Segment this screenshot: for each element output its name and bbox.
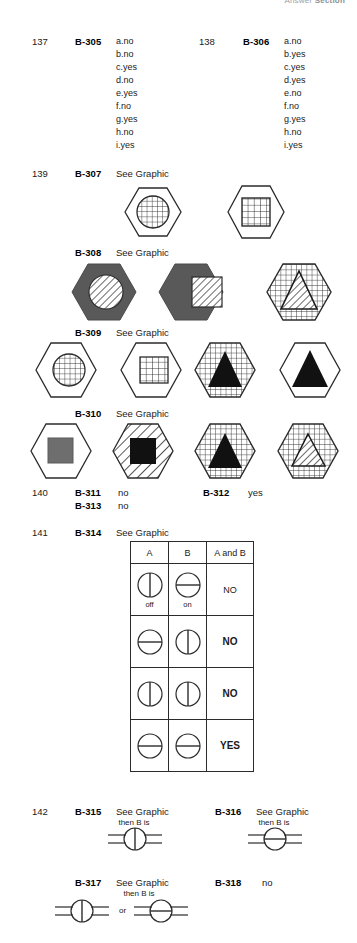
answer-letter: e. (116, 88, 124, 98)
or-label-b317: or (119, 906, 126, 915)
answer-value: yes (289, 140, 303, 150)
answer-letter: b. (116, 49, 124, 59)
graphic-b309 (28, 337, 346, 401)
question-id-b306: B-306 (243, 36, 269, 47)
cell-result: YES (207, 720, 254, 772)
answer-value: no (292, 127, 302, 137)
answer-value: no (124, 75, 134, 85)
cell-a-switch (131, 616, 169, 668)
table-row: YES (131, 720, 254, 772)
table-row: NO (131, 616, 254, 668)
question-id-b308: B-308 (75, 247, 101, 258)
answer-letter: d. (284, 75, 292, 85)
cell-b-switch: on (169, 564, 207, 616)
switch-on-icon (136, 732, 164, 760)
answer-list-b305: a.no b.no c.yes d.no e.yes f.no g.yes h.… (116, 36, 138, 153)
b308-svg (62, 259, 344, 325)
running-header: Answer Section (284, 0, 345, 5)
question-id-b316: B-316 (215, 806, 241, 817)
switch-label-off: off (145, 600, 153, 609)
answer-b311: no (118, 487, 129, 498)
switch-off-icon (174, 680, 202, 708)
answer-value: no (121, 101, 131, 111)
answer-key-page: Answer Section 137 B-305 a.no b.no c.yes… (0, 0, 357, 943)
switch-on-icon (174, 571, 202, 599)
question-id-b305: B-305 (75, 36, 101, 47)
cell-a-switch (131, 720, 169, 772)
answer-value: no (292, 88, 302, 98)
question-id-b313: B-313 (75, 500, 101, 511)
table-header-b: B (169, 542, 207, 564)
cell-result: NO (207, 564, 254, 616)
question-id-b318: B-318 (215, 877, 241, 888)
graphic-b316 (237, 826, 313, 852)
answer-value: no (289, 101, 299, 111)
graphic-b315 (97, 826, 173, 852)
cell-result: NO (207, 616, 254, 668)
answer-letter: h. (284, 127, 292, 137)
see-graphic-b316: See Graphic (256, 806, 309, 817)
running-header-plain: Answer (284, 0, 314, 5)
answer-letter: h. (116, 127, 124, 137)
question-number-138: 138 (199, 36, 215, 47)
answer-letter: d. (116, 75, 124, 85)
running-header-bold: Section (315, 0, 345, 5)
question-id-b315: B-315 (75, 806, 101, 817)
see-graphic-b307: See Graphic (116, 168, 169, 179)
cell-b-switch (169, 668, 207, 720)
answer-letter: c. (284, 62, 291, 72)
see-graphic-b317: See Graphic (116, 877, 169, 888)
answer-value: yes (292, 75, 306, 85)
b307-svg (105, 180, 315, 242)
question-id-b317: B-317 (75, 877, 101, 888)
graphic-b310 (28, 418, 346, 482)
answer-letter: c. (116, 62, 123, 72)
graphic-b307 (105, 180, 315, 242)
answer-b313: no (118, 500, 129, 511)
question-id-b312: B-312 (203, 487, 229, 498)
switch-label-on: on (183, 600, 191, 609)
question-id-b311: B-311 (75, 487, 101, 498)
answer-letter: b. (284, 49, 292, 59)
b315-svg (97, 826, 173, 852)
switch-off-icon (136, 571, 164, 599)
table-header-a-and-b: A and B (207, 542, 254, 564)
answer-value: yes (121, 140, 135, 150)
answer-value: yes (292, 114, 306, 124)
answer-b318: no (262, 877, 273, 888)
switch-off-icon (136, 680, 164, 708)
switch-on-icon (136, 628, 164, 656)
graphic-b308 (62, 259, 344, 325)
answer-value: yes (124, 114, 138, 124)
table-row: off on NO (131, 564, 254, 616)
answer-b312: yes (248, 487, 263, 498)
answer-letter: a. (116, 36, 124, 46)
cell-b-switch (169, 720, 207, 772)
b310-svg (28, 418, 346, 482)
answer-value: yes (123, 62, 137, 72)
answer-value: yes (124, 88, 138, 98)
question-number-141: 141 (32, 527, 48, 538)
switch-off-icon (174, 628, 202, 656)
table-row: NO (131, 668, 254, 720)
table-header-a: A (131, 542, 169, 564)
see-graphic-b315: See Graphic (116, 806, 169, 817)
answer-letter: e. (284, 88, 292, 98)
question-number-137: 137 (32, 36, 48, 47)
see-graphic-b314: See Graphic (116, 527, 169, 538)
cell-a-switch: off (131, 564, 169, 616)
answer-letter: a. (284, 36, 292, 46)
see-graphic-b308: See Graphic (116, 247, 169, 258)
question-number-142: 142 (32, 806, 48, 817)
cell-b-switch (169, 616, 207, 668)
cell-a-switch (131, 668, 169, 720)
answer-value: yes (292, 49, 306, 59)
question-id-b307: B-307 (75, 168, 101, 179)
answer-value: no (292, 36, 302, 46)
truth-table-b314: A B A and B off (130, 541, 254, 772)
switch-on-icon (174, 732, 202, 760)
question-id-b314: B-314 (75, 527, 101, 538)
answer-letter: g. (116, 114, 124, 124)
answer-list-b306: a.no b.yes c.yes d.yes e.no f.no g.yes h… (284, 36, 306, 153)
table-header-row: A B A and B (131, 542, 254, 564)
